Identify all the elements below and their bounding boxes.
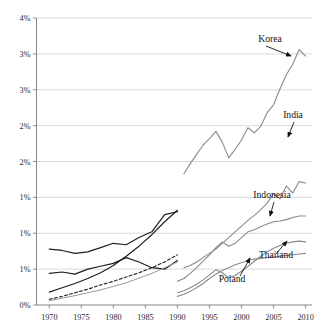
x-tick-label: 1995 [201, 313, 217, 322]
series-label-india: India [283, 109, 303, 120]
y-tick-label: 0% [20, 301, 31, 310]
data-series [49, 50, 305, 301]
annotation-arrow-indonesia [270, 202, 274, 216]
y-axis-ticks: 0%1%1%1%2%2%3%3%4% [20, 14, 37, 310]
y-tick-label: 1% [20, 265, 31, 274]
x-tick-label: 1990 [169, 313, 185, 322]
series-label-indonesia: Indonesia [253, 189, 291, 200]
line-chart: 0%1%1%1%2%2%3%3%4% 197019751980198519901… [0, 0, 327, 334]
y-tick-label: 4% [20, 14, 31, 23]
x-tick-label: 1970 [41, 313, 57, 322]
series-line-historical-e [49, 262, 177, 301]
y-tick-label: 2% [20, 158, 31, 167]
x-tick-label: 1980 [105, 313, 121, 322]
x-tick-label: 2005 [265, 313, 281, 322]
gridlines [37, 18, 313, 269]
annotation-arrow-india [288, 122, 294, 137]
x-tick-label: 2010 [297, 313, 313, 322]
chart-container: 0%1%1%1%2%2%3%3%4% 197019751980198519901… [0, 0, 327, 334]
series-line-historical-a [49, 212, 177, 254]
y-tick-label: 3% [20, 86, 31, 95]
series-line-historical-d-dashed [49, 255, 177, 299]
series-label-korea: Korea [258, 33, 282, 44]
y-tick-label: 1% [20, 193, 31, 202]
annotation-arrow-korea [266, 46, 291, 56]
y-tick-label: 1% [20, 229, 31, 238]
series-annotations: KoreaIndiaIndonesiaThailandPoland [219, 33, 304, 284]
x-tick-label: 2000 [233, 313, 249, 322]
x-axis-ticks: 197019751980198519901995200020052010 [41, 305, 314, 322]
series-label-thailand: Thailand [259, 249, 293, 260]
y-tick-label: 2% [20, 122, 31, 131]
x-tick-label: 1975 [73, 313, 89, 322]
y-tick-label: 3% [20, 50, 31, 59]
series-label-poland: Poland [219, 273, 246, 284]
x-tick-label: 1985 [137, 313, 153, 322]
